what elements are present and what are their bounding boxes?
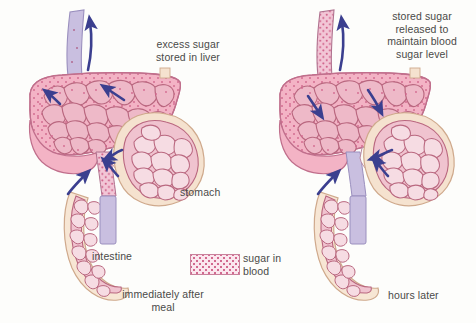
mesenteric-vein-left	[100, 196, 116, 244]
liver-tab-right	[410, 68, 420, 78]
sugar-in-blood-swatch-icon	[190, 254, 240, 275]
liver-tab-left	[160, 68, 170, 78]
label-intestine: intestine	[92, 250, 162, 263]
diagram-canvas: excess sugar stored in liver stored suga…	[0, 0, 476, 323]
hepatic-vein-right	[317, 10, 334, 76]
label-hours-later: hours later	[388, 289, 464, 302]
legend-sugar-in-blood-label: sugar in blood	[243, 252, 313, 277]
intestine-right	[314, 192, 378, 300]
mesenteric-vein-right	[350, 196, 366, 244]
intestine-left	[64, 192, 128, 300]
hepatic-vein-left	[67, 10, 84, 76]
label-stored-sugar-released: stored sugar released to maintain blood …	[372, 10, 472, 60]
label-immediately-after-meal: immediately after meal	[108, 288, 218, 313]
stomach-right	[364, 113, 454, 206]
label-excess-sugar-stored-in-liver: excess sugar stored in liver	[136, 38, 240, 63]
label-stomach: stomach	[180, 186, 250, 199]
